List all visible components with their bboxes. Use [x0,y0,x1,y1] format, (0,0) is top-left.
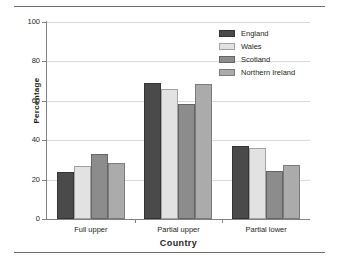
y-tick-label: 40 [14,136,40,144]
x-tick-mark [222,219,223,223]
bar-england[interactable] [57,172,74,219]
y-tick-label: 60 [14,97,40,105]
bar-england[interactable] [232,146,249,219]
x-tick-mark [135,219,136,223]
legend: EnglandWalesScotlandNorthern Ireland [219,27,295,79]
bottom-rule [14,252,325,253]
legend-label: England [241,29,269,38]
bar-scotland[interactable] [266,171,283,219]
legend-item[interactable]: England [219,27,295,40]
bar-wales[interactable] [249,148,266,219]
legend-swatch-icon [219,56,235,63]
figure: Percentage Country 020406080100 Full upp… [0,0,339,265]
x-tick-label: Partial lower [246,225,287,234]
bar-scotland[interactable] [91,154,108,219]
bar-group: Partial upper [135,22,223,219]
bar-group: Full upper [47,22,135,219]
legend-label: Scotland [241,55,270,64]
y-tick-label: 100 [14,18,40,26]
bar-england[interactable] [144,83,161,219]
x-tick-label: Full upper [74,225,107,234]
bar-wales[interactable] [74,166,91,219]
legend-label: Northern Ireland [241,68,295,77]
y-tick-label: 80 [14,57,40,65]
y-tick-label: 20 [14,176,40,184]
legend-label: Wales [241,42,262,51]
x-axis-line [46,219,310,220]
legend-item[interactable]: Scotland [219,53,295,66]
bar-northern-ireland[interactable] [108,163,125,219]
bar-scotland[interactable] [178,104,195,219]
x-tick-label: Partial upper [157,225,200,234]
legend-swatch-icon [219,30,235,37]
bar-wales[interactable] [161,89,178,219]
legend-item[interactable]: Northern Ireland [219,66,295,79]
top-rule [14,6,325,7]
legend-swatch-icon [219,69,235,76]
bar-northern-ireland[interactable] [195,84,212,219]
legend-swatch-icon [219,43,235,50]
bar-northern-ireland[interactable] [283,165,300,219]
x-axis-title: Country [47,238,310,248]
y-tick-label: 0 [14,215,40,223]
legend-item[interactable]: Wales [219,40,295,53]
